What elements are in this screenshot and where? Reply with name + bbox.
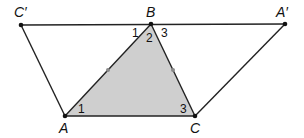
angle-b3: 3	[161, 26, 168, 40]
point-c-prime	[19, 23, 24, 28]
label-c-prime: C′	[14, 4, 28, 20]
segment-c-a-prime	[195, 24, 285, 116]
angle-a1: 1	[78, 102, 85, 116]
angle-c3: 3	[180, 102, 187, 116]
angle-b2: 2	[146, 31, 153, 45]
midpoint-tick-bc	[171, 68, 175, 72]
label-b: B	[146, 4, 155, 20]
label-c: C	[190, 120, 201, 136]
point-b	[149, 22, 154, 27]
point-c	[193, 114, 198, 119]
point-a	[63, 114, 68, 119]
triangle-diagram: C′ B A′ A C 1 2 3 1 3	[0, 0, 304, 138]
label-a-prime: A′	[275, 4, 289, 20]
segment-c-prime-a	[21, 25, 65, 116]
point-a-prime	[283, 22, 288, 27]
label-a: A	[58, 120, 68, 136]
midpoint-tick-ab	[106, 68, 110, 72]
angle-b1: 1	[132, 26, 139, 40]
